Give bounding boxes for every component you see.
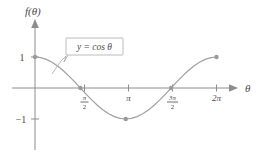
cosine-function-chart: f(θ) θ 1 −1 π 2 π 3π [0,0,271,157]
point-0-1 [33,55,37,59]
x-tick-three-half-pi-numerator: 3π [168,94,176,101]
equation-callout: y = cos θ [52,38,123,74]
chart-svg: f(θ) θ 1 −1 π 2 π 3π [0,0,271,157]
y-tick-label-neg1: −1 [16,114,27,125]
point-3halfpi-0 [169,86,173,90]
point-halfpi-0 [78,86,82,90]
y-tick-label-1: 1 [20,52,25,63]
point-2pi-1 [214,55,218,59]
x-axis-arrowhead [229,84,238,92]
x-tick-label-three-half-pi: 3π 2 [167,94,178,110]
y-axis-arrowhead [31,19,39,28]
y-axis-label: f(θ) [25,5,41,18]
x-tick-label-two-pi: 2π [212,93,222,103]
x-tick-three-half-pi-denominator: 2 [171,103,175,110]
point-pi-neg1 [124,117,128,121]
x-axis-label: θ [245,82,251,94]
x-tick-label-pi: π [126,93,131,103]
x-tick-label-half-pi: π 2 [81,94,89,110]
axes-group [12,19,238,150]
callout-text: y = cos θ [76,42,112,52]
x-tick-half-pi-denominator: 2 [83,103,87,110]
